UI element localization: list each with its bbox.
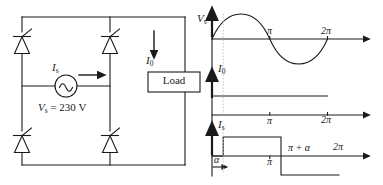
i0-xtick-2pi: 2π [321,115,331,125]
thyristor-top-right [102,29,120,54]
thyristor-bottom-right [102,128,120,153]
ac-source-circle [55,75,77,97]
vs-xtick-2pi: 2π [321,26,331,36]
i0-axis-label: I0 [218,63,225,75]
source-voltage-label: Vs = 230 V [38,102,86,114]
scr-br-triangle [103,136,118,153]
is-axis-label: Is [218,119,225,131]
scr-br-gate [111,128,120,135]
thyristor-top-left [14,29,32,54]
scr-tr-gate [111,29,120,36]
scr-bl-triangle [15,136,30,153]
is-alpha-label: α [214,155,219,165]
ac-source-sine-glyph [60,84,73,92]
is-xtick-2pi: 2π [333,142,343,152]
is-xtick-pi-plus-alpha: π + α [288,143,310,153]
scr-tl-triangle [15,37,30,54]
scr-bl-gate [23,128,32,135]
is-current-label: Is [52,62,59,74]
scr-tl-gate [23,29,32,36]
load-label: Load [148,75,200,86]
is-xtick-pi: π [267,157,272,167]
vs-xtick-pi: π [267,26,272,36]
vs-axis-label: Vs [197,13,207,25]
scr-tr-triangle [103,37,118,54]
i0-xtick-pi: π [267,116,272,126]
figure-root: Is Vs = 230 V I0 Load Vs π 2π I0 π 2π Is… [0,0,383,185]
thyristor-bottom-left [14,128,32,153]
i0-current-label: I0 [146,55,153,67]
